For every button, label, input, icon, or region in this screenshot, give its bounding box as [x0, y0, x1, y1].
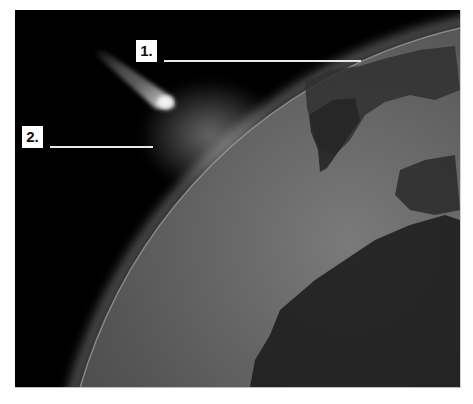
earth-scene	[15, 10, 460, 387]
label-2-text: 2.	[26, 128, 39, 145]
label-2-box: 2.	[22, 126, 43, 148]
label-1-text: 1.	[140, 42, 153, 59]
meteor	[93, 50, 175, 110]
diagram-frame: 1. 2.	[15, 10, 461, 388]
label-1-answer-line[interactable]	[164, 60, 361, 62]
label-1-box: 1.	[136, 40, 157, 62]
label-2-answer-line[interactable]	[50, 146, 153, 148]
